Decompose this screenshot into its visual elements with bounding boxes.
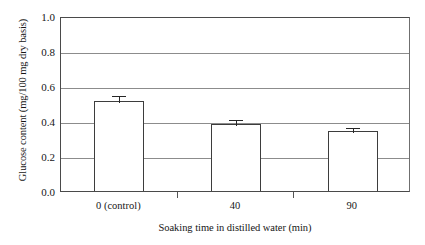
x-axis-minor-tick bbox=[293, 192, 294, 198]
y-axis-tick-label: 0.0 bbox=[27, 187, 55, 197]
error-bar-cap bbox=[229, 120, 243, 121]
y-axis-tick-label: 0.6 bbox=[27, 82, 55, 92]
y-axis-tick-label: 0.2 bbox=[27, 152, 55, 162]
x-axis-tick-label: 90 bbox=[293, 199, 410, 212]
y-axis-tick-label: 1.0 bbox=[27, 12, 55, 22]
y-axis-tick-labels: 0.00.20.40.60.81.0 bbox=[27, 0, 55, 245]
y-axis-tick-label: 0.8 bbox=[27, 47, 55, 57]
x-axis-minor-tick bbox=[177, 192, 178, 198]
bar bbox=[211, 124, 261, 191]
error-bar-cap bbox=[346, 128, 360, 129]
bar bbox=[94, 101, 144, 191]
bar bbox=[328, 131, 378, 191]
error-bar-stem bbox=[119, 96, 120, 103]
x-axis-title: Soaking time in distilled water (min) bbox=[60, 221, 410, 235]
bar-chart: Glucose content (mg/100 mg dry basis) 0.… bbox=[0, 0, 425, 245]
x-axis-tick-label: 40 bbox=[177, 199, 294, 212]
gridline bbox=[61, 88, 409, 89]
gridline bbox=[61, 53, 409, 54]
error-bar-cap bbox=[112, 96, 126, 97]
y-axis-tick-label: 0.4 bbox=[27, 117, 55, 127]
plot-area bbox=[60, 17, 410, 192]
x-axis-tick-label: 0 (control) bbox=[60, 199, 177, 212]
